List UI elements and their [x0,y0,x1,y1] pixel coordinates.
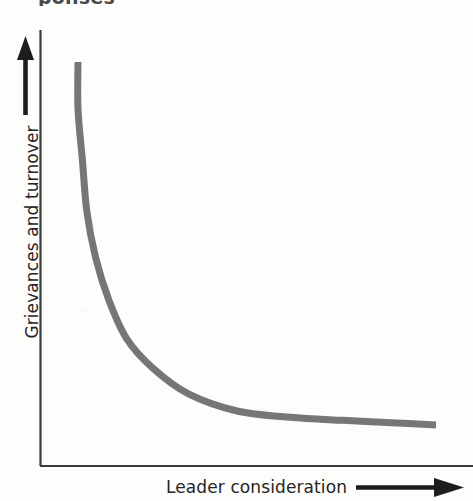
chart-figure: ponses Grievances and turnover Leader co… [0,0,473,501]
y-axis-label: Grievances and turnover [22,112,42,352]
data-curve-grievances-vs-consideration [78,62,436,425]
arrow-up-icon [17,36,34,115]
x-axis-label-group: Leader consideration [166,477,466,497]
x-axis-label: Leader consideration [166,477,347,497]
chart-plot-area [0,0,473,501]
arrow-right-icon [356,477,466,497]
